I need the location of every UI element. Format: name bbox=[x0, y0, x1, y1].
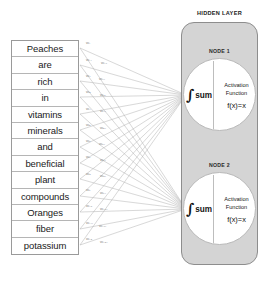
weight-label: w₆₁ bbox=[99, 141, 106, 146]
weight-label: w₅₁ bbox=[100, 125, 107, 130]
weight-label: w₂₁ bbox=[99, 76, 106, 81]
weight-label: w₁₂ bbox=[101, 60, 107, 65]
weight-label: w₉ bbox=[86, 187, 91, 192]
input-word-cell[interactable]: plant bbox=[12, 172, 78, 188]
input-word-cell[interactable]: and bbox=[12, 139, 78, 155]
weight-label: w₂ bbox=[86, 73, 91, 78]
weight-label: w₁₂₁ bbox=[99, 223, 107, 228]
input-word-cell[interactable]: Oranges bbox=[12, 205, 78, 221]
node-1-circle: ∫ sum Activation Function f(x)=x bbox=[183, 58, 256, 131]
hidden-layer-title: HIDDEN LAYER bbox=[181, 10, 258, 16]
input-word-cell[interactable]: minerals bbox=[12, 123, 78, 139]
diagram-canvas: w₁w₁₁w₁₂w₂w₂₁w₃w₃₁w₄w₄₁w₅w₅₁w₆w₆₁w₇w₇₁w₈… bbox=[0, 0, 268, 292]
node-2-sum: ∫ sum bbox=[186, 173, 213, 245]
hidden-node-2[interactable]: NODE 2 ∫ sum Activation Function f(x)=x bbox=[183, 172, 256, 245]
input-word-cell[interactable]: compounds bbox=[12, 189, 78, 205]
weight-label: w₁₃ bbox=[86, 236, 92, 241]
weight-label: w₁ bbox=[86, 40, 91, 45]
weight-label: w₁₃₁ bbox=[100, 239, 108, 244]
node-1-sum-label: sum bbox=[195, 91, 212, 100]
input-word-cell[interactable]: fiber bbox=[12, 221, 78, 237]
weight-label: w₇ bbox=[86, 154, 91, 159]
node-1-activation: Activation Function f(x)=x bbox=[214, 59, 256, 131]
weight-label: w₈ bbox=[86, 171, 91, 176]
node-2-activation-formula: f(x)=x bbox=[227, 215, 246, 224]
node-1-label: NODE 1 bbox=[183, 48, 256, 54]
input-word-cell[interactable]: in bbox=[12, 90, 78, 106]
node-2-activation-line2: Function bbox=[226, 204, 247, 211]
input-word-cell[interactable]: are bbox=[12, 57, 78, 73]
input-word-cell[interactable]: rich bbox=[12, 74, 78, 90]
node-2-circle: ∫ sum Activation Function f(x)=x bbox=[183, 172, 256, 245]
input-word-cell[interactable]: potassium bbox=[12, 238, 78, 254]
hidden-node-1[interactable]: NODE 1 ∫ sum Activation Function f(x)=x bbox=[183, 58, 256, 131]
input-word-list: Peachesarerichinvitaminsmineralsandbenef… bbox=[11, 40, 79, 255]
input-word-cell[interactable]: vitamins bbox=[12, 107, 78, 123]
summation-icon: ∫ bbox=[186, 202, 195, 217]
weight-label: w₃₁ bbox=[100, 92, 107, 97]
weight-label: w₅ bbox=[86, 122, 91, 127]
weight-label: w₁₀ bbox=[86, 203, 92, 208]
weight-label: w₈₁ bbox=[100, 173, 107, 178]
node-1-activation-formula: f(x)=x bbox=[227, 101, 246, 110]
node-2-sum-label: sum bbox=[195, 205, 212, 214]
input-word-cell[interactable]: beneficial bbox=[12, 156, 78, 172]
node-2-activation-line1: Activation bbox=[224, 196, 248, 203]
weight-label: w₇₁ bbox=[100, 157, 106, 162]
node-1-activation-line1: Activation bbox=[224, 82, 248, 89]
summation-icon: ∫ bbox=[186, 88, 195, 103]
weight-label: w₁₁ bbox=[86, 57, 92, 62]
node-1-sum: ∫ sum bbox=[186, 59, 213, 131]
node-1-activation-line2: Function bbox=[226, 90, 247, 97]
weight-label: w₆ bbox=[86, 138, 91, 143]
weight-label: w₄ bbox=[86, 106, 91, 111]
weight-label: w₄₁ bbox=[100, 108, 107, 113]
weight-label: w₉₁ bbox=[100, 190, 107, 195]
input-word-cell[interactable]: Peaches bbox=[12, 41, 78, 57]
weight-label: w₁₀₁ bbox=[100, 206, 108, 211]
node-2-activation: Activation Function f(x)=x bbox=[214, 173, 256, 245]
weight-label: w₃ bbox=[86, 89, 91, 94]
weight-label: w₁₁₁ bbox=[86, 220, 94, 225]
node-2-label: NODE 2 bbox=[183, 162, 256, 168]
